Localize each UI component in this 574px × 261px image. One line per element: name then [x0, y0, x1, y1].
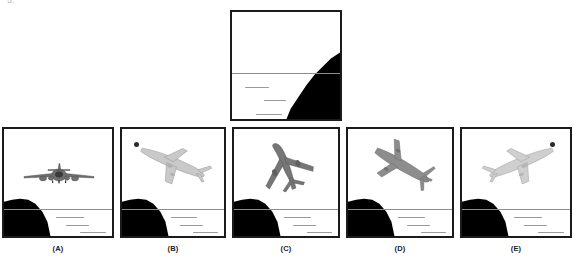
option-panel-a[interactable] — [2, 127, 114, 238]
option-label-d: (D) — [346, 244, 454, 253]
option-label-c: (C) — [232, 244, 340, 253]
landmass-left — [234, 129, 338, 236]
landmass-right — [232, 12, 340, 119]
sun-dot-icon — [550, 142, 555, 147]
option-e-scene — [462, 129, 570, 236]
reference-scene — [232, 12, 340, 119]
option-b-scene — [122, 129, 224, 236]
wave-mark — [307, 232, 332, 233]
horizon-line — [4, 209, 112, 210]
horizon-line — [348, 209, 452, 210]
option-label-a: (A) — [2, 244, 114, 253]
horizon-line — [122, 209, 224, 210]
wave-mark — [80, 232, 106, 233]
wave-mark — [538, 232, 564, 233]
landmass-left — [4, 129, 112, 236]
option-panel-b[interactable] — [120, 127, 226, 238]
wave-mark — [171, 217, 198, 218]
option-panel-c[interactable] — [232, 127, 340, 238]
wave-mark — [245, 87, 269, 88]
option-panel-d[interactable] — [346, 127, 454, 238]
option-a-scene — [4, 129, 112, 236]
wave-mark — [56, 217, 84, 218]
option-c-scene — [234, 129, 338, 236]
horizon-line — [232, 73, 340, 74]
question-number-artifact: 5. — [7, 0, 15, 5]
option-d-scene — [348, 129, 452, 236]
horizon-line — [234, 209, 338, 210]
wave-mark — [514, 217, 542, 218]
wave-mark — [256, 114, 282, 115]
wave-mark — [398, 217, 425, 218]
wave-mark — [421, 232, 446, 233]
wave-mark — [264, 100, 286, 101]
wave-mark — [193, 232, 217, 233]
landmass-left — [348, 129, 452, 236]
sun-dot-icon — [134, 142, 139, 147]
horizon-line — [462, 209, 570, 210]
reference-panel — [230, 10, 342, 121]
option-panel-e[interactable] — [460, 127, 572, 238]
wave-mark — [284, 217, 311, 218]
option-label-b: (B) — [120, 244, 226, 253]
option-label-e: (E) — [460, 244, 572, 253]
